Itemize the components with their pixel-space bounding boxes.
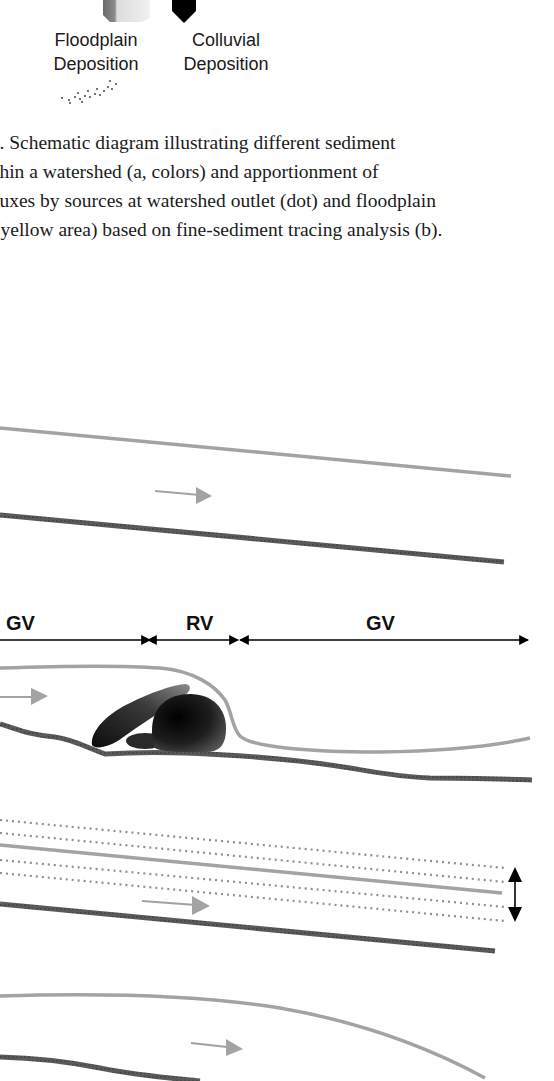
- dotted-line: [0, 820, 505, 868]
- panel-rapid-valley: [0, 666, 532, 780]
- dotted-line: [0, 860, 505, 907]
- flow-arrow-icon: [0, 688, 48, 705]
- bank-line: [0, 845, 502, 893]
- bank-line: [0, 666, 530, 752]
- floodplain-block-icon: [103, 0, 150, 22]
- colluvial-pentagon-icon: [172, 0, 196, 23]
- vertical-dimension-arrow-icon: [508, 867, 522, 922]
- dotted-line: [0, 873, 505, 921]
- bed-line: [0, 1057, 200, 1081]
- caption-line: /. Schematic diagram illustrating differ…: [0, 128, 554, 157]
- caption-line: (yellow area) based on fine-sediment tra…: [0, 215, 554, 244]
- flow-arrow-icon: [191, 1039, 243, 1056]
- panel-aggradation: [0, 820, 522, 951]
- dotted-line: [0, 833, 505, 882]
- legend-floodplain-line1: Floodplain: [40, 28, 152, 52]
- floodplain-dots-icon: [61, 80, 117, 104]
- segment-label-gv-right: GV: [366, 612, 396, 634]
- panel-curved-channel: [0, 995, 485, 1081]
- panel-straight-channel: [0, 428, 511, 562]
- bed-line: [0, 515, 504, 562]
- flow-arrow-icon: [155, 487, 212, 504]
- caption-line: thin a watershed (a, colors) and apporti…: [0, 157, 554, 186]
- bed-line: [0, 904, 495, 951]
- legend-colluvial-line1: Colluvial: [170, 28, 282, 52]
- legend-floodplain-line2: Deposition: [40, 52, 152, 76]
- segment-label-gv-left: GV: [6, 612, 36, 634]
- figure-caption: /. Schematic diagram illustrating differ…: [0, 128, 554, 244]
- legend-colluvial-label: Colluvial Deposition: [170, 28, 282, 76]
- segment-label-rv: RV: [186, 612, 214, 634]
- legend-colluvial-line2: Deposition: [170, 52, 282, 76]
- bed-line: [0, 724, 532, 780]
- boulder-icon: [92, 684, 226, 752]
- bank-line: [0, 428, 511, 476]
- caption-line: luxes by sources at watershed outlet (do…: [0, 186, 554, 215]
- legend-floodplain-label: Floodplain Deposition: [40, 28, 152, 76]
- flow-arrow-icon: [142, 896, 210, 915]
